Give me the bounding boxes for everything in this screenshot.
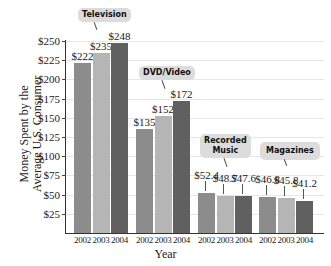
x-tick-label: 2003 bbox=[91, 235, 111, 245]
value-leader bbox=[303, 189, 304, 199]
bar-television-2003 bbox=[93, 53, 110, 233]
bar-recorded-music-2002 bbox=[198, 193, 215, 233]
y-tick-mark bbox=[62, 214, 66, 215]
bar-chart: Money Spent by the Average U.S. Consumer… bbox=[0, 0, 331, 266]
y-tick-mark bbox=[62, 41, 66, 42]
y-tick-label: $225 bbox=[28, 54, 60, 66]
bar-television-2004 bbox=[111, 43, 128, 233]
y-tick-label: $200 bbox=[28, 73, 60, 85]
value-leader bbox=[223, 184, 224, 194]
bar-television-2002 bbox=[74, 63, 91, 233]
y-tick-label: $25 bbox=[28, 208, 60, 220]
y-tick-mark bbox=[62, 99, 66, 100]
x-tick-label: 2003 bbox=[153, 235, 173, 245]
bar-recorded-music-2004 bbox=[235, 196, 252, 233]
value-label: $248 bbox=[103, 30, 137, 42]
category-callout-television: Television bbox=[78, 8, 131, 22]
x-tick-label: 2004 bbox=[110, 235, 130, 245]
callout-leader bbox=[161, 80, 165, 89]
x-tick-label: 2004 bbox=[295, 235, 315, 245]
x-tick-label: 2004 bbox=[172, 235, 192, 245]
y-tick-label: $75 bbox=[28, 169, 60, 181]
y-tick-label: $100 bbox=[28, 150, 60, 162]
x-tick-label: 2003 bbox=[215, 235, 235, 245]
bar-magazines-2003 bbox=[278, 198, 295, 233]
category-callout-dvd-video: DVD/Video bbox=[139, 66, 195, 80]
bar-dvd-video-2002 bbox=[136, 129, 153, 233]
bar-recorded-music-2003 bbox=[217, 196, 234, 233]
y-tick-mark bbox=[62, 156, 66, 157]
callout-line: Music bbox=[204, 146, 247, 156]
callout-leader bbox=[223, 158, 227, 167]
y-tick-mark bbox=[62, 175, 66, 176]
value-leader bbox=[284, 186, 285, 196]
y-tick-label: $150 bbox=[28, 112, 60, 124]
x-tick-label: 2002 bbox=[135, 235, 155, 245]
y-tick-label: $125 bbox=[28, 131, 60, 143]
callout-leader bbox=[284, 159, 287, 166]
y-tick-mark bbox=[62, 137, 66, 138]
value-leader bbox=[205, 181, 206, 191]
y-tick-label: $175 bbox=[28, 93, 60, 105]
y-tick-mark bbox=[62, 195, 66, 196]
y-tick-mark bbox=[62, 79, 66, 80]
value-label: $41.2 bbox=[288, 177, 322, 189]
y-tick-label: $50 bbox=[28, 189, 60, 201]
callout-line: Recorded bbox=[204, 136, 247, 146]
x-axis bbox=[65, 233, 324, 234]
x-tick-label: 2002 bbox=[73, 235, 93, 245]
bar-dvd-video-2004 bbox=[173, 101, 190, 233]
x-axis-label: Year bbox=[0, 247, 331, 262]
value-leader bbox=[266, 185, 267, 195]
value-label: $172 bbox=[165, 88, 199, 100]
category-callout-magazines: Magazines bbox=[260, 142, 320, 160]
value-leader bbox=[242, 184, 243, 194]
callout-leader bbox=[94, 22, 98, 30]
bar-magazines-2004 bbox=[296, 201, 313, 233]
x-tick-label: 2003 bbox=[276, 235, 296, 245]
y-tick-mark bbox=[62, 118, 66, 119]
x-tick-label: 2002 bbox=[258, 235, 278, 245]
bar-dvd-video-2003 bbox=[155, 116, 172, 233]
bar-magazines-2002 bbox=[259, 197, 276, 233]
x-tick-label: 2002 bbox=[197, 235, 217, 245]
x-tick-label: 2004 bbox=[234, 235, 254, 245]
y-tick-label: $250 bbox=[28, 35, 60, 47]
category-callout-recorded-music: Recorded Music bbox=[200, 134, 251, 158]
